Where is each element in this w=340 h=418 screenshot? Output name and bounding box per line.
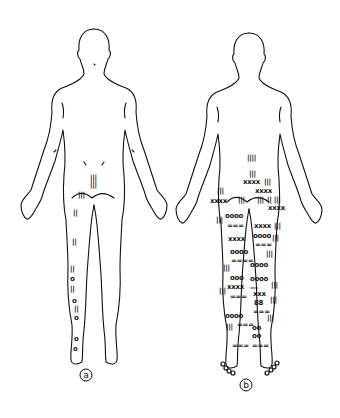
- pain-symbol: oooo: [225, 212, 244, 220]
- toe-circle-symbol: [221, 362, 225, 366]
- pain-symbol: |||: [249, 170, 256, 178]
- pain-symbol: o: [72, 297, 77, 305]
- pain-symbol: ooo: [230, 274, 244, 282]
- pain-symbol: |||: [272, 234, 279, 242]
- pain-symbol: oooo: [250, 261, 269, 269]
- pain-symbol: 88: [254, 299, 264, 307]
- pain-symbol: xxxx: [210, 197, 228, 205]
- pain-symbol: |||: [257, 196, 264, 204]
- pain-symbol: oo: [252, 324, 262, 332]
- pain-symbol: |||: [219, 287, 226, 295]
- pain-symbol: |||: [90, 181, 97, 189]
- pain-symbol: xxxx: [228, 235, 246, 243]
- pain-symbol: xxxx: [255, 187, 273, 195]
- pain-symbol: oooo: [230, 248, 249, 256]
- pain-symbol: o: [73, 345, 78, 353]
- pain-symbol: |||: [223, 264, 230, 272]
- pain-symbol: ===: [252, 342, 269, 350]
- pain-symbol: ===: [230, 293, 247, 301]
- svg-text:b: b: [243, 380, 249, 390]
- svg-text:a: a: [83, 370, 89, 380]
- pain-markings-a: |||||||||||||||o||o||ooo: [70, 174, 97, 353]
- pain-markings-b: |||||||xxxx|||xxxx|||xxxx|||||||| |||xxx…: [210, 154, 286, 375]
- toe-circle-symbol: [227, 369, 231, 373]
- pain-symbol: o: [74, 335, 79, 343]
- pain-symbol: o: [74, 314, 79, 322]
- pain-symbol: xxx: [253, 290, 266, 298]
- pain-symbol: xxxx: [227, 283, 245, 291]
- pain-symbol: ||: [74, 305, 79, 313]
- pain-symbol: |||: [274, 222, 281, 230]
- pain-symbol: |||: [271, 281, 278, 289]
- toe-circle-symbol: [272, 365, 276, 369]
- pain-diagram: |||||||||||||||o||o||ooo |||||||xxxx|||x…: [0, 0, 340, 418]
- pain-symbol: oooo: [225, 312, 244, 320]
- pain-symbol: |||: [78, 191, 85, 199]
- body-outline-a: [21, 29, 167, 364]
- pain-symbol: |||: [264, 178, 271, 186]
- pain-symbol: oooo: [253, 232, 272, 240]
- pain-symbol: xxxx: [243, 178, 261, 186]
- body-outline-b: [176, 33, 322, 368]
- pain-symbol: ===: [227, 222, 244, 230]
- pain-symbol: ||: [73, 209, 78, 217]
- pain-symbol: |||: [216, 216, 223, 224]
- pain-symbol: xxxx: [268, 204, 286, 212]
- pain-symbol: |||: [238, 196, 245, 204]
- pain-symbol: xxxx: [254, 222, 272, 230]
- pain-symbol: ||: [70, 285, 75, 293]
- pain-symbol: ||: [72, 238, 77, 246]
- pain-symbol: o: [70, 275, 75, 283]
- toe-circle-symbol: [265, 371, 269, 375]
- toe-circle-symbol: [231, 371, 235, 375]
- panel-label-a: a: [80, 369, 92, 381]
- pain-symbol: ===: [255, 241, 272, 249]
- pain-symbol: |||: [270, 296, 277, 304]
- panel-label-b: b: [240, 379, 252, 391]
- pain-symbol: oooo: [250, 275, 269, 283]
- pain-symbol: ||||: [247, 154, 256, 162]
- pain-symbol: ===: [232, 342, 249, 350]
- pain-symbol: || |||: [267, 196, 280, 204]
- pain-symbol: |||: [266, 250, 273, 258]
- pain-symbol: |||: [226, 323, 233, 331]
- pain-symbol: |||: [217, 187, 224, 195]
- toe-circle-symbol: [275, 361, 279, 365]
- pain-symbol: oo: [252, 332, 262, 340]
- pain-symbol: ||: [70, 265, 75, 273]
- pain-symbol: |||: [267, 314, 274, 322]
